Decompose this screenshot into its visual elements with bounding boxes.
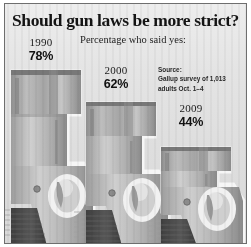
stat-percent-1990: 78% [19,50,63,64]
source-line-1: Source: [158,65,244,74]
source-line-2: Gallup survey of 1,013 [158,74,244,83]
stat-label-1990: 1990 78% [19,37,63,63]
stat-percent-2009: 44% [169,116,213,130]
source-note: Source: Gallup survey of 1,013 adults Oc… [158,65,244,93]
stat-year-2000: 2000 [94,65,138,77]
stat-year-1990: 1990 [19,37,63,49]
gun-bar-2009 [147,145,247,244]
stat-percent-2000: 62% [94,78,138,92]
chart-subtitle: Percentage who said yes: [53,34,213,45]
stat-label-2000: 2000 62% [94,65,138,91]
infographic-frame: Should gun laws be more strict? Percenta… [4,3,247,244]
infographic-panel: Should gun laws be more strict? Percenta… [0,0,251,247]
chart-title: Should gun laws be more strict? [5,10,246,31]
stat-year-2009: 2009 [169,103,213,115]
source-line-3: adults Oct. 1–4 [158,84,244,93]
stat-label-2009: 2009 44% [169,103,213,129]
